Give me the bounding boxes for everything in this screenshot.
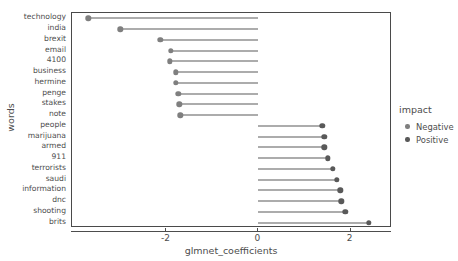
data-point[interactable] [339,198,344,203]
lollipop-stem [258,179,336,180]
data-point[interactable] [334,177,339,182]
legend-dot-icon [405,124,409,128]
lollipop-stem [180,115,258,116]
y-axis-tick-label: business [33,67,66,75]
data-point[interactable] [118,26,123,31]
y-axis-tick-label: 4100 [47,57,66,65]
x-axis-tick-label: 2 [347,233,353,243]
lollipop-stem [120,29,258,30]
y-axis-tick-label: stakes [42,100,66,108]
y-axis-title: words [5,90,16,146]
legend-swatch [402,121,413,132]
y-axis-tick-labels: technologyindiabrexitemail4100businesshe… [16,12,66,227]
data-point[interactable] [158,37,163,42]
lollipop-stem [178,93,258,94]
lollipop-stem [160,39,258,40]
data-point[interactable] [330,166,335,171]
y-axis-tick-label: people [40,121,66,129]
legend-swatch [402,134,413,145]
y-axis-tick-label: terrorists [32,164,66,172]
data-point[interactable] [177,112,182,117]
legend-item[interactable]: Positive [402,133,454,146]
data-point[interactable] [85,16,90,21]
lollipop-stem [258,158,327,159]
lollipop-stem [258,147,324,148]
y-axis-tick-label: technology [24,14,66,22]
lollipop-stem [170,61,259,62]
y-axis-tick-label: brexit [44,35,66,43]
x-axis-title: glmnet_coefficients [71,245,391,256]
legend-dot-icon [405,137,409,141]
plot-panel [71,12,391,227]
data-point[interactable] [168,48,173,53]
y-axis-tick-label: saudi [46,175,66,183]
data-point[interactable] [325,155,330,160]
legend-label: Negative [416,122,454,132]
lollipop-stem [258,190,340,191]
data-point[interactable] [173,69,178,74]
data-point[interactable] [167,59,172,64]
lollipop-stem [258,136,324,137]
y-axis-tick-label: penge [42,89,66,97]
y-axis-tick-label: hermine [35,78,66,86]
lollipop-stem [258,125,322,126]
lollipop-stem [88,18,258,19]
lollipop-stem [258,201,341,202]
lollipop-stem [171,50,259,51]
lollipop-stem [258,168,332,169]
y-axis-tick-label: brits [49,218,66,226]
data-point[interactable] [322,134,327,139]
x-axis-tick-mark [350,228,351,231]
lollipop-stem [176,72,259,73]
lollipop-stem [258,222,368,223]
legend-title: impact [399,104,454,115]
y-axis-tick-label: shooting [33,207,66,215]
y-axis-tick-label: information [22,186,66,194]
x-axis-tick-label: -2 [161,233,170,243]
y-axis-tick-label: india [47,24,66,32]
x-axis-tick-mark [165,228,166,231]
lollipop-stem [258,211,345,212]
y-axis-tick-label: email [45,46,66,54]
x-axis-tick-mark [257,228,258,231]
y-axis-tick-label: note [49,110,66,118]
x-axis-line [71,231,391,232]
y-axis-tick-label: armed [41,143,66,151]
data-point[interactable] [173,80,178,85]
legend-item[interactable]: Negative [402,120,454,133]
y-axis-tick-label: dnc [52,196,66,204]
data-point[interactable] [322,145,327,150]
data-point[interactable] [343,209,348,214]
data-point[interactable] [338,188,343,193]
legend: impact NegativePositive [399,104,454,146]
data-point[interactable] [366,220,371,225]
chart-container: words technologyindiabrexitemail4100busi… [0,0,458,261]
legend-items: NegativePositive [399,120,454,146]
data-point[interactable] [177,102,182,107]
lollipop-stem [176,82,259,83]
data-point[interactable] [176,91,181,96]
data-point[interactable] [320,123,325,128]
y-axis-tick-label: marijuana [28,132,66,140]
y-axis-tick-label: 911 [52,153,67,161]
x-axis-tick-label: 0 [255,233,261,243]
legend-label: Positive [416,135,448,145]
lollipop-stem [179,104,258,105]
